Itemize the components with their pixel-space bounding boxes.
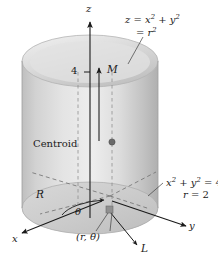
surface-eq-equals: =: [130, 14, 145, 25]
surface-eq-y-exponent: 2: [175, 13, 179, 21]
centroid-label: Centroid: [33, 139, 77, 149]
cylinder-paraboloid-figure: z 4 M z = x2 + y2 = r2 Centroid R θ x2 +…: [0, 0, 218, 270]
radius-equation-label: r = 2: [183, 190, 209, 200]
region-label-R: R: [36, 189, 44, 200]
centroid-point-marker: [109, 139, 115, 145]
surface-equation-line-1: z = x2 + y2: [125, 14, 180, 25]
surface-eq-plus: +: [155, 14, 170, 25]
z-axis-label: z: [86, 4, 91, 14]
y-axis-label: y: [189, 221, 195, 231]
circle-equation-label: x2 + y2 = 4: [166, 177, 218, 188]
mass-label-M: M: [107, 64, 118, 75]
theta-angle-label: θ: [75, 207, 81, 217]
base-point-marker: [106, 206, 113, 213]
circle-eq-plus: +: [176, 177, 191, 188]
surface-equation-line-2: = r2: [136, 27, 157, 38]
surface-eq2-r-exponent: 2: [152, 26, 156, 34]
z-tick-label-4: 4: [71, 66, 77, 76]
circle-eq-rhs: = 4: [201, 177, 218, 188]
x-axis-label: x: [12, 234, 18, 244]
base-point-label: (r, θ): [76, 232, 100, 242]
surface-eq2-equals: =: [136, 27, 148, 38]
radius-eq-rhs: = 2: [188, 189, 209, 200]
line-L-label: L: [141, 243, 148, 254]
figure-canvas: [0, 0, 218, 270]
